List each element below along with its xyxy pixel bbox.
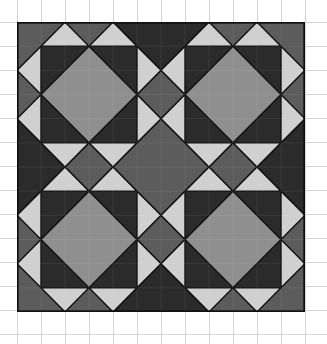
quilt-diagram [17,22,305,312]
quilt-svg [17,22,305,312]
